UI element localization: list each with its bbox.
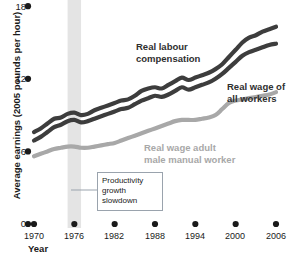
x-tick-label-1988: 1988 <box>138 231 172 241</box>
chart-plot-area <box>0 0 292 260</box>
x-axis-title: Year <box>28 243 48 254</box>
x-tick-label-1982: 1982 <box>97 231 131 241</box>
x-tick-label-1970: 1970 <box>17 231 51 241</box>
y-tick-label-6: 6 <box>6 146 26 157</box>
y-tick-label-0: 0 <box>6 218 26 229</box>
y-axis-tick-markers <box>25 3 31 227</box>
x-tick-label-2006: 2006 <box>259 231 292 241</box>
x-tick-dot <box>31 221 37 227</box>
y-axis-title: Average earnings (2005 pounds per hour) <box>11 6 22 206</box>
x-tick-dot <box>152 221 158 227</box>
y-tick-label-12: 12 <box>6 73 26 84</box>
x-tick-dot <box>71 221 77 227</box>
x-tick-label-1976: 1976 <box>57 231 91 241</box>
x-tick-label-2000: 2000 <box>218 231 252 241</box>
x-tick-dot <box>233 221 239 227</box>
y-tick-label-18: 18 <box>6 1 26 12</box>
series-label-real-wage-all-workers: Real wage of all workers <box>227 81 285 104</box>
x-tick-dot <box>273 221 279 227</box>
series-label-real-wage-adult-male-manual: Real wage adult male manual worker <box>144 142 235 165</box>
chart-container: Average earnings (2005 pounds per hour) … <box>0 0 292 260</box>
x-tick-dot <box>192 221 198 227</box>
annotation-productivity-slowdown: Productivity growth slowdown <box>97 172 163 211</box>
x-tick-dot <box>112 221 118 227</box>
x-tick-label-1994: 1994 <box>178 231 212 241</box>
series-label-real-labour-compensation: Real labour compensation <box>136 41 200 64</box>
